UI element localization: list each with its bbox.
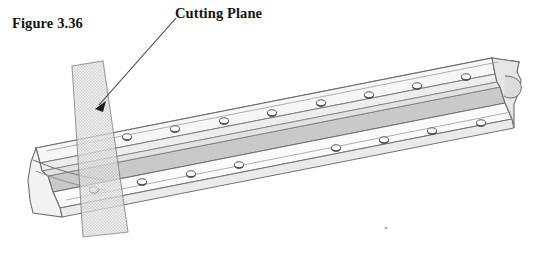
hole (316, 100, 325, 106)
hole (122, 134, 131, 140)
cutting-plane-label: Cutting Plane (175, 5, 262, 22)
hole (364, 92, 373, 98)
hole (412, 83, 421, 89)
scan-speck (385, 227, 387, 229)
hole (476, 120, 485, 126)
hole (219, 118, 228, 124)
hole (461, 74, 470, 80)
hole (137, 179, 146, 185)
angle-bracket-illustration (0, 0, 539, 254)
hole (379, 137, 388, 143)
hole (331, 145, 340, 151)
hole (234, 162, 243, 168)
hole (267, 110, 276, 116)
figure-page: Figure 3.36 Cutting Plane (0, 0, 539, 254)
hole (427, 128, 436, 134)
hole (186, 171, 195, 177)
hole (170, 126, 179, 132)
figure-caption: Figure 3.36 (12, 15, 83, 32)
